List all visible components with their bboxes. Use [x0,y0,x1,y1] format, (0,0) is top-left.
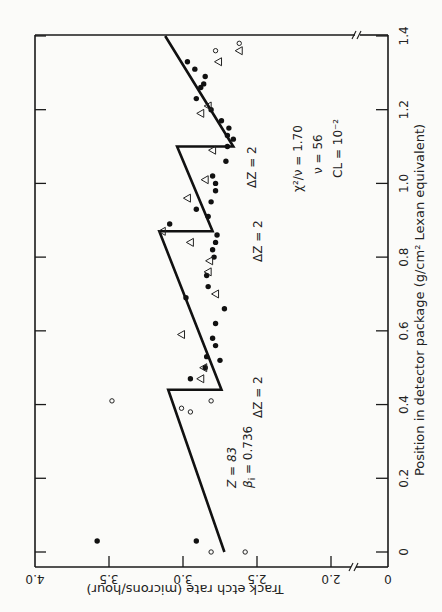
open-triangle-point [201,176,208,184]
axis-break-marks [349,31,361,571]
filled-circle-point [225,133,230,138]
confidence-level-annotation: CL = 10⁻² [331,119,345,178]
open-circle-point [209,399,213,403]
filled-circle-point [194,538,199,543]
nu-annotation: ν = 56 [311,134,325,174]
filled-circle-point [223,159,228,164]
x-tick-label: 0.8 [397,248,411,267]
filled-circle-point [217,358,222,363]
delta-z-annotation-2: ΔZ = 2 [251,220,265,262]
open-triangle-point [178,331,185,339]
filled-circle-point [205,214,210,219]
filled-circle-point [210,173,215,178]
filled-circle-point [208,199,213,204]
filled-circle-point [213,188,218,193]
filled-circle-point [226,125,231,130]
open-circle-point [237,41,241,45]
chi-square-annotation: χ²/ν = 1.70 [291,125,305,192]
filled-circle-point [222,306,227,311]
filled-circle-point [188,376,193,381]
plot-frame [35,35,388,567]
beta-annotation: βi = 0.736 [241,426,257,489]
x-tick-label: 0.4 [397,395,411,414]
delta-z-annotation-3: ΔZ = 2 [245,146,259,188]
x-tick-label: 1.4 [397,26,411,45]
open-circle-point [209,550,213,554]
filled-circle-point [203,74,208,79]
x-tick-label: 1.2 [397,100,411,119]
open-triangle-point [212,290,219,298]
filled-circle-point [213,181,218,186]
open-triangle-point [215,58,222,66]
x-axis-title: Position in detector package (g/cm² Lexa… [412,124,427,476]
filled-circle-point [210,336,215,341]
etch-rate-chart: 00.20.40.60.81.01.21.44.03.53.02.52.00 P… [0,0,442,612]
y-tick-label: 0 [384,572,392,586]
y-tick-label: 2.0 [321,572,340,586]
filled-circle-point [201,81,206,86]
z-annotation: Z = 83 [225,447,239,489]
x-tick-label: 1.0 [397,174,411,193]
filled-circle-point [205,284,210,289]
filled-circle-point [94,538,99,543]
filled-circle-point [204,354,209,359]
open-circle-point [188,410,192,414]
delta-z-annotation-1: ΔZ = 2 [251,376,265,418]
filled-circle-point [183,295,188,300]
x-tick-label: 0.2 [397,469,411,488]
filled-circle-point [219,118,224,123]
x-tick-label: 0.6 [397,321,411,340]
open-triangle-point [183,194,190,202]
open-circle-point [179,406,183,410]
filled-circle-point [213,240,218,245]
open-triangle-point [235,47,242,55]
filled-circle-point [214,232,219,237]
axis-tick-labels: 00.20.40.60.81.01.21.44.03.53.02.52.00 [25,26,410,585]
filled-circle-point [231,136,236,141]
open-triangle-point [186,238,193,246]
filled-circle-point [192,66,197,71]
axis-ticks [35,36,388,567]
filled-circle-point [194,96,199,101]
filled-circle-point [225,144,230,149]
filled-circle-point [210,247,215,252]
open-triangle-point [197,109,204,117]
filled-circle-point [167,221,172,226]
filled-circle-point [185,59,190,64]
open-triangle-point [197,375,204,383]
y-tick-label: 4.0 [25,572,44,586]
open-circle-point [213,49,217,53]
filled-circle-point [213,343,218,348]
open-circle-point [110,399,114,403]
x-tick-label: 0 [397,548,411,556]
open-circle-point [243,550,247,554]
filled-circle-point [194,207,199,212]
y-axis-title: Track etch rate (microns/hour) [86,582,284,597]
filled-circle-point [213,321,218,326]
